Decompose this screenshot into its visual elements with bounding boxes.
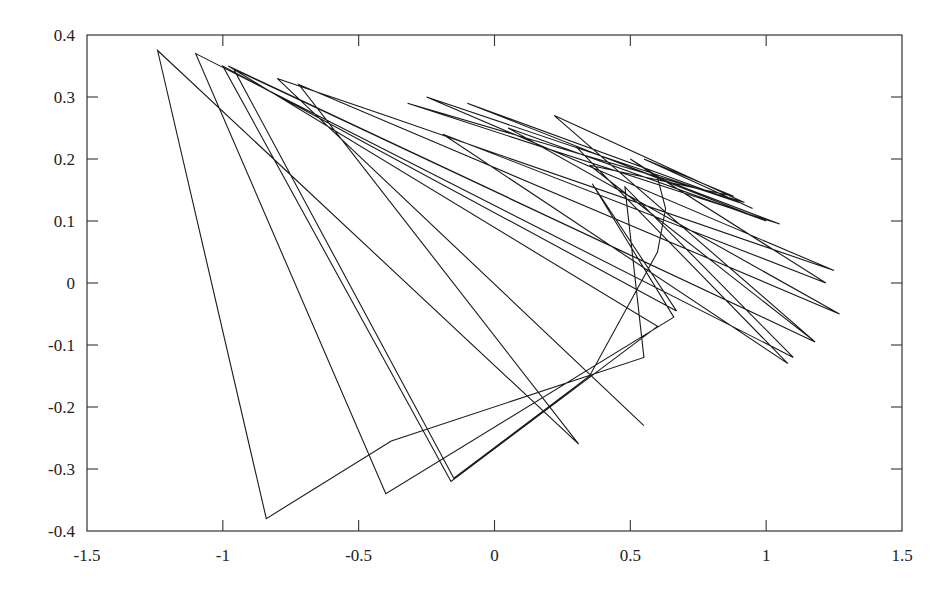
y-tick-label: 0.4	[54, 26, 76, 45]
y-tick-label: 0.2	[54, 150, 75, 169]
x-tick-label: 1.5	[891, 546, 912, 565]
x-tick-label: 0.5	[620, 546, 641, 565]
x-tick-label: 1	[762, 546, 771, 565]
x-tick-label: -1.5	[74, 546, 101, 565]
y-tick-label: 0.1	[54, 212, 75, 231]
chart-canvas: -1.5-1-0.500.511.50.40.30.20.10-0.1-0.2-…	[0, 0, 940, 601]
y-tick-label: -0.1	[48, 336, 75, 355]
trajectory-line	[158, 51, 840, 519]
y-tick-label: -0.3	[48, 460, 75, 479]
axes: -1.5-1-0.500.511.50.40.30.20.10-0.1-0.2-…	[48, 26, 913, 565]
y-tick-label: -0.4	[48, 522, 75, 541]
y-tick-label: 0	[67, 274, 76, 293]
plot-frame	[87, 35, 902, 531]
x-tick-label: -0.5	[345, 546, 372, 565]
x-tick-label: -1	[216, 546, 230, 565]
y-tick-label: -0.2	[48, 398, 75, 417]
y-tick-label: 0.3	[54, 88, 75, 107]
x-tick-label: 0	[490, 546, 499, 565]
